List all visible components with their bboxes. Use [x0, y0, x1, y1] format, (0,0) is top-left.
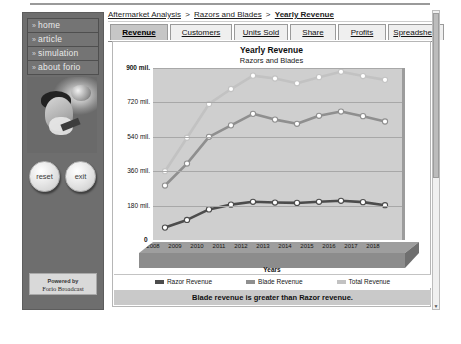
sidebar: »home»article»simulation»about forio res… [22, 12, 104, 310]
top-divider [30, 3, 430, 5]
y-axis-tick-label: 720 mil. [116, 98, 150, 105]
tab-units-sold[interactable]: Units Sold [234, 24, 288, 40]
y-axis-tick-label: 180 mil. [116, 202, 150, 209]
y-axis-tick-label: 900 mil. [116, 64, 150, 71]
legend-item: Blade Revenue [246, 278, 302, 285]
data-point[interactable] [184, 217, 189, 222]
x-axis-tick-label: 2017 [341, 243, 361, 249]
data-point[interactable] [338, 198, 343, 203]
gridline [153, 206, 402, 207]
data-point[interactable] [294, 121, 299, 126]
sidebar-item-simulation[interactable]: »simulation [28, 47, 98, 61]
powered-by-badge[interactable]: Powered by Forio Broadcast [29, 273, 97, 295]
breadcrumb-separator: > [264, 10, 273, 19]
x-axis-tick-label: 2011 [209, 243, 229, 249]
sidebar-button-row: resetexit [29, 161, 97, 193]
data-point[interactable] [272, 200, 277, 205]
data-point[interactable] [316, 75, 321, 80]
data-point[interactable] [382, 119, 387, 124]
x-axis-base: 2008200920102011201220132014201520162017… [139, 242, 419, 273]
data-point[interactable] [294, 81, 299, 86]
breadcrumb: Aftermarket Analysis > Razors and Blades… [108, 8, 434, 22]
exit-button[interactable]: exit [65, 161, 96, 192]
series-lines [153, 68, 405, 240]
data-point[interactable] [272, 117, 277, 122]
x-axis-tick-label: 2012 [231, 243, 251, 249]
sidebar-item-label: simulation [38, 48, 78, 58]
breadcrumb-item-2: Yearly Revenue [275, 10, 334, 19]
data-point[interactable] [184, 161, 189, 166]
data-point[interactable] [206, 207, 211, 212]
legend-swatch-icon [337, 280, 346, 284]
data-point[interactable] [360, 200, 365, 205]
powered-by-line2: Forio Broadcast [30, 285, 96, 293]
chart-legend: Razor RevenueBlade RevenueTotal Revenue [114, 274, 431, 288]
breadcrumb-item-0[interactable]: Aftermarket Analysis [108, 10, 181, 19]
chart-title: Yearly Revenue [113, 45, 430, 55]
hero-photo [27, 77, 97, 153]
tab-share[interactable]: Share [290, 24, 336, 40]
breadcrumb-separator: > [183, 10, 192, 19]
y-axis-labels: 900 mil.720 mil.540 mil.360 mil.180 mil. [113, 68, 150, 240]
sidebar-item-label: home [38, 20, 60, 30]
breadcrumb-item-1[interactable]: Razors and Blades [194, 10, 262, 19]
data-point[interactable] [228, 86, 233, 91]
gridline [153, 171, 402, 172]
scroll-thumb[interactable] [433, 13, 439, 178]
x-axis-top-face: 2008200920102011201220132014201520162017… [139, 242, 419, 253]
gridline [153, 102, 402, 103]
x-axis-front-face: Years [139, 253, 405, 268]
data-point[interactable] [338, 69, 343, 74]
chevron-right-icon: » [32, 33, 36, 46]
chart-subtitle: Razors and Blades [113, 56, 430, 65]
data-point[interactable] [382, 77, 387, 82]
data-point[interactable] [228, 123, 233, 128]
data-point[interactable] [316, 199, 321, 204]
data-point[interactable] [360, 114, 365, 119]
data-point[interactable] [162, 225, 167, 230]
data-point[interactable] [250, 111, 255, 116]
legend-label: Total Revenue [349, 278, 391, 285]
chevron-right-icon: » [32, 47, 36, 60]
gridline [153, 68, 402, 69]
vertical-scrollbar[interactable]: ▲ ▼ [432, 10, 440, 310]
sidebar-item-label: article [38, 34, 62, 44]
reset-button[interactable]: reset [29, 161, 60, 192]
plot-area [153, 68, 405, 240]
data-point[interactable] [162, 183, 167, 188]
x-axis-tick-label: 2014 [275, 243, 295, 249]
data-point[interactable] [272, 76, 277, 81]
x-axis-tick-label: 2008 [143, 243, 163, 249]
sidebar-item-label: about forio [38, 62, 80, 72]
chevron-right-icon: » [32, 19, 36, 32]
data-point[interactable] [250, 199, 255, 204]
legend-item: Razor Revenue [155, 278, 212, 285]
data-point[interactable] [338, 109, 343, 114]
plot-wrapper: 900 mil.720 mil.540 mil.360 mil.180 mil.… [113, 66, 432, 273]
sidebar-item-article[interactable]: »article [28, 33, 98, 47]
sidebar-item-about-forio[interactable]: »about forio [28, 61, 98, 74]
status-message: Blade revenue is greater than Razor reve… [114, 290, 431, 305]
legend-label: Razor Revenue [167, 278, 212, 285]
sidebar-item-home[interactable]: »home [28, 19, 98, 33]
x-axis-tick-label: 2018 [363, 243, 383, 249]
x-axis-tick-label: 2016 [319, 243, 339, 249]
scroll-down-arrow[interactable]: ▼ [433, 303, 439, 309]
data-point[interactable] [360, 73, 365, 78]
app-window: »home»article»simulation»about forio res… [0, 0, 461, 344]
tab-revenue[interactable]: Revenue [110, 24, 168, 40]
tab-customers[interactable]: Customers [170, 24, 232, 40]
y-axis-tick-label: 360 mil. [116, 167, 150, 174]
data-point[interactable] [316, 113, 321, 118]
legend-label: Blade Revenue [258, 278, 302, 285]
x-axis-title: Years [139, 266, 405, 273]
chevron-right-icon: » [32, 61, 36, 74]
photo-bulb [71, 85, 91, 101]
legend-swatch-icon [246, 280, 255, 284]
tab-profits[interactable]: Profits [338, 24, 386, 40]
sidebar-nav: »home»article»simulation»about forio [27, 18, 99, 75]
x-axis-tick-label: 2013 [253, 243, 273, 249]
data-point[interactable] [250, 73, 255, 78]
main-panel: Aftermarket Analysis > Razors and Blades… [108, 8, 440, 322]
legend-item: Total Revenue [337, 278, 391, 285]
